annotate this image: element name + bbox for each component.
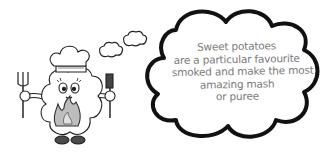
small-cloud-icon xyxy=(100,31,147,56)
chef-hat-icon xyxy=(50,46,89,72)
smoke-chef-character xyxy=(18,46,115,144)
shoe-icon xyxy=(71,136,85,144)
bubble-line: smoked and make the most xyxy=(172,64,302,79)
bubble-line: or puree xyxy=(172,89,302,104)
shoe-icon xyxy=(55,136,69,144)
thought-bubble-text: Sweet potatoes are a particular favourit… xyxy=(171,39,302,104)
